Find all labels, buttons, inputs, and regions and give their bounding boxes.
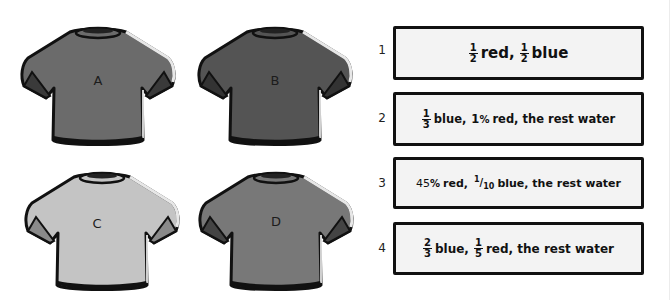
option-value: 45	[416, 177, 430, 190]
option-text: blue	[532, 44, 569, 62]
option-text: blue,	[434, 112, 467, 126]
shirt-a: A	[18, 20, 178, 150]
option-value: 1	[471, 112, 479, 126]
option-text: red,	[443, 177, 468, 190]
option-text: blue, the rest water	[497, 177, 621, 190]
option-number: 3	[378, 176, 386, 190]
option-text: red, the rest water	[492, 112, 615, 126]
option-number: 1	[378, 43, 386, 57]
fraction: 1 2	[520, 43, 529, 64]
page-edge-divider	[669, 0, 670, 300]
shirt-label: A	[94, 73, 103, 88]
option-box-3[interactable]: 45 % red, 1/10 blue, the rest water	[393, 157, 644, 209]
option-text: blue,	[435, 242, 469, 256]
shirt-b: B	[195, 20, 355, 150]
shirt-label: D	[271, 214, 281, 229]
fraction: 1 5	[474, 238, 483, 259]
fraction: 1 2	[469, 43, 478, 64]
option-text: red,	[481, 44, 515, 62]
shirt-d: D	[196, 165, 356, 295]
option-box-4[interactable]: 2 3 blue, 1 5 red, the rest water	[393, 222, 644, 275]
tshirt-icon	[196, 165, 356, 295]
fraction: 1/10	[474, 175, 494, 191]
fraction: 1 3	[422, 109, 431, 130]
shirt-label: B	[271, 73, 280, 88]
percent-sign: %	[479, 114, 489, 125]
option-box-2[interactable]: 1 3 blue, 1 % red, the rest water	[393, 92, 644, 146]
option-text: red, the rest water	[486, 242, 614, 256]
shirt-label: C	[92, 216, 101, 231]
tshirt-icon	[22, 165, 182, 295]
fraction: 2 3	[423, 238, 432, 259]
percent-sign: %	[430, 178, 440, 189]
option-number: 4	[378, 241, 386, 255]
option-number: 2	[378, 111, 386, 125]
shirt-c: C	[22, 165, 182, 295]
option-box-1[interactable]: 1 2 red, 1 2 blue	[393, 26, 644, 80]
